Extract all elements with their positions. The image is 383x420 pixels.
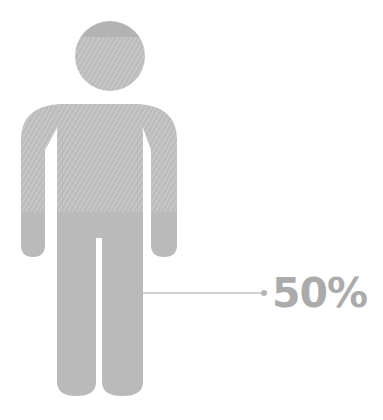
connector-dot-icon: [261, 290, 267, 296]
person-figure: [0, 0, 200, 412]
filled-region: [0, 212, 200, 412]
person-infographic: [0, 0, 383, 420]
percentage-label: 50%: [272, 268, 367, 318]
head-top-band: [0, 0, 200, 37]
hatched-region: [0, 37, 200, 212]
